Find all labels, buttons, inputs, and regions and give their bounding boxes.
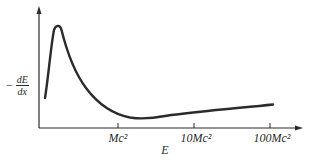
energy-loss-curve — [45, 26, 273, 118]
y-axis-label-fraction: dE dx — [16, 74, 29, 97]
y-axis-label: − dE dx — [6, 74, 29, 97]
y-axis-label-denominator: dx — [18, 86, 27, 97]
x-ticks — [118, 123, 270, 128]
x-axis — [39, 126, 303, 131]
y-axis-label-numerator: dE — [16, 74, 29, 86]
x-tick-label-mc2: Mc² — [109, 131, 128, 146]
x-tick-label-10mc2: 10Mc² — [181, 131, 212, 146]
x-axis-arrow-icon — [295, 126, 303, 131]
energy-loss-chart: − dE dx Mc² 10Mc² 100Mc² E — [0, 0, 316, 165]
y-axis-label-sign: − — [6, 78, 13, 93]
y-axis — [37, 6, 42, 128]
x-tick-label-100mc2: 100Mc² — [254, 131, 291, 146]
x-axis-label: E — [161, 143, 168, 158]
y-axis-arrow-icon — [37, 6, 42, 14]
